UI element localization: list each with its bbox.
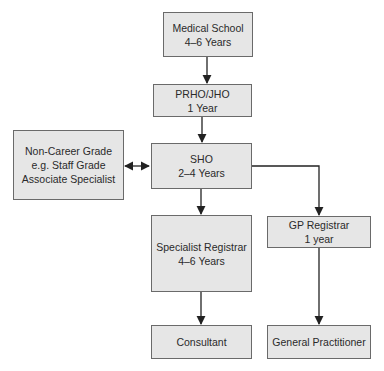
node-label: GP Registrar [289,218,350,232]
node-label: Consultant [176,335,226,349]
node-sublabel: 1 Year [188,101,218,115]
node-label: Non-Career Grade [25,144,112,158]
node-sublabel: 1 year [304,232,333,246]
node-label: General Practitioner [272,335,365,349]
node-sublabel: Associate Specialist [22,172,115,186]
node-sho: SHO 2–4 Years [151,143,252,189]
node-gp-registrar: GP Registrar 1 year [267,216,371,248]
node-specialist-registrar: Specialist Registrar 4–6 Years [151,215,252,292]
node-label: SHO [190,152,213,166]
node-non-career-grade: Non-Career Grade e.g. Staff Grade Associ… [13,130,124,200]
node-label: Specialist Registrar [156,240,246,254]
node-medical-school: Medical School 4–6 Years [163,12,253,57]
node-sublabel: e.g. Staff Grade [32,158,106,172]
node-sublabel: 4–6 Years [178,254,225,268]
node-sublabel: 2–4 Years [178,166,225,180]
node-label: PRHO/JHO [175,87,229,101]
node-consultant: Consultant [151,325,252,359]
node-label: Medical School [172,21,243,35]
node-general-practitioner: General Practitioner [267,325,371,359]
node-sublabel: 4–6 Years [185,35,232,49]
edge-sho-to-gpreg [251,166,319,215]
node-prho-jho: PRHO/JHO 1 Year [153,84,252,117]
